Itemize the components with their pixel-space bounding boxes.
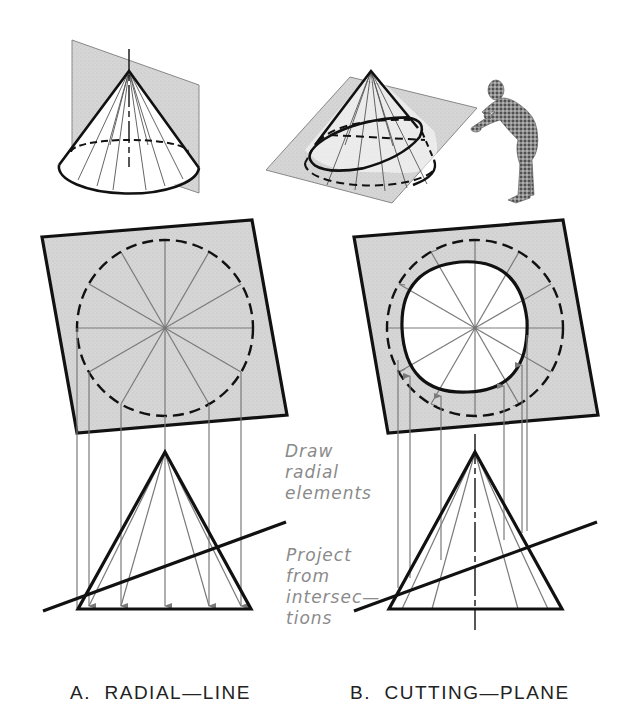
observer-figure: [471, 80, 538, 203]
caption-b-line1: B. CUTTING—PLANE: [350, 682, 580, 701]
front-view-b: [354, 434, 597, 630]
top-view-a: [42, 220, 287, 433]
pictorial-a: [59, 40, 199, 194]
note-line: from: [286, 566, 330, 586]
note-line: radial: [285, 462, 339, 482]
note-line: elements: [285, 483, 372, 503]
note-line: Draw: [285, 441, 333, 461]
caption-b: B. CUTTING—PLANE METHOD: [350, 638, 580, 701]
caption-a: A. RADIAL—LINE METHOD: [70, 638, 250, 701]
pictorial-b: [266, 71, 477, 203]
note-project-from-intersections: Project from intersec— tions: [286, 545, 380, 629]
note-line: Project: [286, 545, 352, 565]
note-line: intersec—: [286, 587, 380, 607]
top-view-b: [354, 220, 598, 433]
note-line: tions: [286, 608, 332, 628]
section-area: [402, 262, 527, 392]
caption-a-line1: A. RADIAL—LINE: [70, 682, 250, 701]
note-draw-radial-elements: Draw radial elements: [285, 441, 372, 504]
